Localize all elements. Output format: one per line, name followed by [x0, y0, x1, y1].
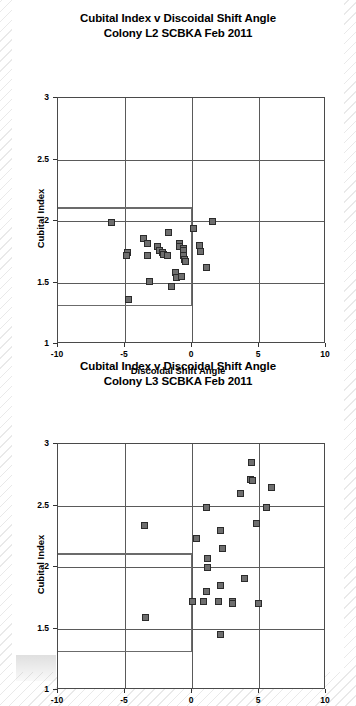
data-point-marker: [190, 225, 197, 232]
y-tick-mark: [53, 505, 57, 506]
plot-area-l3: [57, 443, 325, 689]
x-tick-mark: [325, 689, 326, 693]
data-point-marker: [209, 218, 216, 225]
data-point-marker: [168, 283, 175, 290]
chart-title-l2-line1: Cubital Index v Discoidal Shift Angle: [18, 11, 338, 26]
data-point-marker: [108, 219, 115, 226]
data-point-marker: [182, 258, 189, 265]
gridline-vertical: [259, 98, 260, 342]
plot-area-l2: [57, 97, 325, 343]
data-point-marker: [203, 264, 210, 271]
x-tick-mark: [258, 689, 259, 693]
chart-title-l3-line1: Cubital Index v Discoidal Shift Angle: [18, 359, 338, 374]
data-point-marker: [142, 614, 149, 621]
data-point-marker: [144, 252, 151, 259]
data-point-marker: [237, 490, 244, 497]
chart-title-l3-line2: Colony L3 SCBKA Feb 2011: [18, 374, 338, 389]
x-tick-mark: [191, 689, 192, 693]
data-point-marker: [203, 504, 210, 511]
chart-title-l2: Cubital Index v Discoidal Shift Angle Co…: [0, 0, 356, 40]
gridline-vertical: [192, 444, 193, 688]
y-tick-mark: [53, 628, 57, 629]
data-point-marker: [144, 240, 151, 247]
x-tick-mark: [191, 343, 192, 347]
data-point-marker: [229, 600, 236, 607]
y-tick-label-l3: 2.5: [21, 500, 49, 510]
chart-title-l2-line2: Colony L2 SCBKA Feb 2011: [18, 26, 338, 41]
y-tick-label-l3: 3: [21, 438, 49, 448]
gridline-vertical: [259, 444, 260, 688]
y-tick-label-l2: 2: [21, 215, 49, 225]
data-point-marker: [203, 588, 210, 595]
chart-title-l3: Cubital Index v Discoidal Shift Angle Co…: [0, 350, 356, 388]
data-point-marker: [241, 575, 248, 582]
ref-box-bottom: [58, 305, 192, 306]
data-point-marker: [219, 545, 226, 552]
plot-region-l3: Discoidal Shift Angle Cubital Index 11.5…: [0, 388, 356, 688]
data-point-marker: [164, 252, 171, 259]
data-point-marker: [215, 598, 222, 605]
data-point-marker: [165, 229, 172, 236]
ref-box-bottom: [58, 651, 192, 652]
y-tick-label-l3: 1.5: [21, 623, 49, 633]
y-tick-label-l2: 3: [21, 92, 49, 102]
x-tick-mark: [325, 343, 326, 347]
y-tick-mark: [53, 159, 57, 160]
data-point-marker: [204, 555, 211, 562]
x-tick-mark: [258, 343, 259, 347]
data-point-marker: [197, 248, 204, 255]
data-point-marker: [255, 600, 262, 607]
ref-box-top: [58, 553, 192, 554]
chart-figure-l3: Cubital Index v Discoidal Shift Angle Co…: [0, 350, 356, 706]
data-point-marker: [268, 484, 275, 491]
data-point-marker: [204, 564, 211, 571]
data-point-marker: [217, 582, 224, 589]
x-tick-label-l3: -10: [41, 695, 73, 705]
y-tick-mark: [53, 220, 57, 221]
data-point-marker: [200, 598, 207, 605]
data-point-marker: [146, 278, 153, 285]
y-tick-mark: [53, 443, 57, 444]
plot-region-l2: Discoidal Shift Angle Cubital Index 11.5…: [0, 40, 356, 340]
data-point-marker: [193, 535, 200, 542]
gridline-horizontal: [58, 160, 324, 161]
y-tick-mark: [53, 97, 57, 98]
x-tick-mark: [124, 343, 125, 347]
x-tick-label-l3: 0: [175, 695, 207, 705]
x-tick-mark: [57, 343, 58, 347]
data-point-marker: [217, 631, 224, 638]
data-point-marker: [189, 598, 196, 605]
y-tick-mark: [53, 282, 57, 283]
gridline-vertical: [192, 98, 193, 342]
data-point-marker: [125, 296, 132, 303]
ref-box-top: [58, 207, 192, 208]
x-tick-label-l3: -5: [108, 695, 140, 705]
x-tick-label-l3: 10: [309, 695, 341, 705]
y-tick-label-l2: 1.5: [21, 277, 49, 287]
chart-figure-l2: Cubital Index v Discoidal Shift Angle Co…: [0, 0, 356, 352]
x-tick-mark: [124, 689, 125, 693]
x-tick-mark: [57, 689, 58, 693]
data-point-marker: [178, 273, 185, 280]
ref-box-right: [191, 207, 192, 304]
data-point-marker: [217, 527, 224, 534]
y-tick-label-l3: 1: [21, 684, 49, 694]
data-point-marker: [141, 522, 148, 529]
y-tick-mark: [53, 566, 57, 567]
data-point-marker: [248, 459, 255, 466]
x-tick-label-l3: 5: [242, 695, 274, 705]
data-point-marker: [249, 477, 256, 484]
data-point-marker: [253, 520, 260, 527]
data-point-marker: [123, 252, 130, 259]
y-tick-label-l2: 2.5: [21, 154, 49, 164]
y-tick-label-l2: 1: [21, 338, 49, 348]
data-point-marker: [263, 504, 270, 511]
gridline-horizontal: [58, 506, 324, 507]
y-tick-label-l3: 2: [21, 561, 49, 571]
